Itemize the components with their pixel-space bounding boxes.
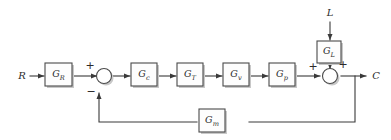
sign-output-summer-plus-top: + [338,59,347,70]
block-label-gc: Gc [138,68,149,80]
block-label-gt: GT [184,68,196,80]
block-label-gm-sub: m [213,119,219,127]
signal-label-c: C [372,71,380,81]
wire-feedback-to-summer [99,93,197,122]
signal-label-r: R [18,71,26,81]
block-label-gr-base: G [52,67,60,78]
block-label-gc-base: G [138,67,146,78]
block-label-gt-sub: T [192,73,196,81]
block-label-gt-base: G [184,67,192,78]
signal-label-l: L [327,8,334,18]
block-diagram-canvas: R L C GR Gc GT Gv Gp GL Gm + − + + [0,0,391,140]
sign-output-summer-plus-left: + [308,61,317,72]
summer-output [323,69,338,84]
block-label-gl-base: G [323,45,331,56]
block-label-gp: Gp [276,68,288,80]
block-label-gv-base: G [230,67,238,78]
block-label-gv-sub: v [238,73,242,81]
summer-error [97,69,112,84]
sign-error-summer-plus: + [85,60,94,71]
block-label-gm-base: G [205,113,213,124]
block-label-gp-sub: p [284,73,288,81]
block-label-gr: GR [52,68,65,80]
block-label-gp-base: G [276,67,284,78]
block-label-gv: Gv [230,68,241,80]
block-label-gm: Gm [205,114,219,126]
block-label-gl-sub: L [331,51,335,59]
block-label-gl: GL [323,46,335,58]
sign-error-summer-minus: − [86,86,95,97]
block-label-gc-sub: c [146,73,150,81]
wire-feedback-tap-down [249,76,355,122]
block-label-gr-sub: R [60,73,65,81]
